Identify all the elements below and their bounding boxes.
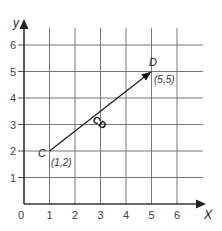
point-c-label: C — [38, 147, 46, 159]
point-d-coordinates: (5,5) — [154, 74, 175, 85]
y-tick-3: 3 — [10, 119, 16, 131]
point-c-coordinates: (1,2) — [51, 157, 72, 168]
y-axis-label: y — [12, 16, 20, 30]
x-tick-3: 3 — [97, 209, 103, 221]
x-tick-1: 1 — [46, 209, 52, 221]
y-tick-6: 6 — [10, 39, 16, 51]
x-tick-labels: 0 1 2 3 4 5 6 — [18, 209, 180, 221]
x-tick-5: 5 — [148, 209, 154, 221]
grid — [24, 28, 203, 204]
y-axis-arrow-icon — [20, 19, 29, 29]
axes — [20, 19, 207, 209]
y-tick-4: 4 — [10, 92, 16, 104]
y-tick-labels: 1 2 3 4 5 6 — [10, 39, 16, 184]
y-tick-2: 2 — [10, 145, 16, 157]
x-tick-6: 6 — [174, 209, 180, 221]
x-tick-0: 0 — [18, 209, 24, 221]
y-ticks — [18, 45, 24, 178]
point-d-label: D — [149, 56, 157, 68]
x-axis-label: X — [203, 208, 213, 222]
segment-arrowhead-icon — [142, 72, 152, 81]
x-tick-4: 4 — [123, 209, 129, 221]
x-tick-2: 2 — [72, 209, 78, 221]
coordinate-plane: y X 0 1 2 3 4 5 6 1 2 3 4 5 6 CD C (1,2)… — [0, 0, 222, 231]
y-tick-1: 1 — [10, 172, 16, 184]
y-tick-5: 5 — [10, 66, 16, 78]
